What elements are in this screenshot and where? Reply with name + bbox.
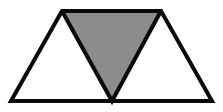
triangle-figure <box>0 0 223 112</box>
